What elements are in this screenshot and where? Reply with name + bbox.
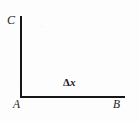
delta-x-label: Δx bbox=[63, 77, 75, 89]
horizontal-axis-line bbox=[20, 96, 125, 98]
vertex-label-b: B bbox=[113, 99, 120, 111]
delta-symbol: Δ bbox=[63, 76, 70, 88]
delta-variable: x bbox=[70, 76, 76, 88]
diagram-canvas: C A B Δx bbox=[0, 0, 139, 121]
vertical-axis-line bbox=[20, 16, 22, 98]
vertex-label-a: A bbox=[13, 99, 20, 111]
vertex-label-c: C bbox=[7, 14, 15, 26]
